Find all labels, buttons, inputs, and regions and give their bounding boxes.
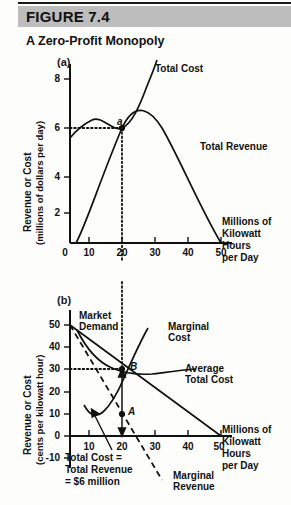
panel-b-callout-leader: [92, 409, 113, 450]
panel-b-plot: [0, 0, 291, 505]
panel-b-point-A-marker: [119, 411, 125, 417]
panel-b-point-B-marker: [119, 366, 125, 372]
figure-container: FIGURE 7.4 A Zero-Profit Monopoly (a) Re…: [0, 0, 291, 505]
panel-b-curve-market-demand: [70, 325, 221, 436]
panel-b-curve-marginal-cost: [84, 328, 148, 415]
panel-b-curve-marginal-revenue: [70, 325, 162, 480]
